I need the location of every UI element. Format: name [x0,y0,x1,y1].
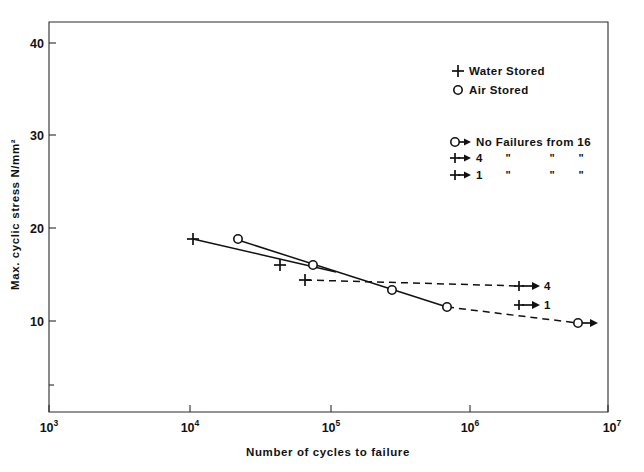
runout-endpoint-one: 1 [514,299,551,311]
y-tick-label-10: 10 [30,315,44,329]
circle-icon [454,86,462,94]
legend-ditto-2a: " [505,152,510,164]
data-point-air-4 [443,303,451,311]
chart-figure: 40 30 20 10 Max. cyclic stress N/mm² 103… [0,0,644,472]
legend-runout-count-2: 4 [476,152,483,164]
y-axis-title: Max. cyclic stress N/mm² [9,139,21,290]
legend-runout-count-3: 1 [476,169,483,181]
fatigue-sn-chart: 40 30 20 10 Max. cyclic stress N/mm² 103… [0,0,644,472]
runout-endpoint-air [574,319,598,327]
legend-item-water-stored: Water Stored [452,65,545,77]
legend-label-air-stored: Air Stored [469,84,529,96]
plus-icon [452,65,464,77]
y-axis-tick-labels: 40 30 20 10 [30,37,44,329]
x-axis-ticks [49,405,608,412]
legend-ditto-3c: " [578,169,583,181]
runout-label-one: 1 [544,299,551,311]
legend-runout-row-2: 4 " " " [450,152,584,164]
x-tick-label-1e3: 103 [40,418,59,435]
y-axis-title-group: Max. cyclic stress N/mm² [9,139,21,290]
legend-label-water-stored: Water Stored [469,65,545,77]
markers-water-stored [187,233,311,286]
axes-frame [49,22,608,412]
x-tick-label-1e5: 105 [322,418,341,435]
series-line-water-runout [305,280,520,286]
legend-ditto-2c: " [578,152,583,164]
data-point-water-3 [299,274,311,286]
x-tick-label-1e6: 106 [461,418,480,435]
x-axis-title: Number of cycles to failure [246,446,410,458]
legend-runout-row-3: 1 " " " [450,169,584,181]
legend-runouts: No Failures from 16 4 " " " [450,136,591,181]
y-tick-label-40: 40 [30,37,44,51]
legend-runout-row-1: No Failures from 16 [451,136,591,148]
plus-arrow-icon-4 [450,153,471,163]
plus-arrow-icon-1 [450,170,471,180]
x-tick-label-1e7: 107 [603,418,622,435]
y-axis-ticks [49,43,56,385]
runout-label-water: 4 [544,280,551,292]
series-line-air-runout [447,307,578,323]
data-point-air-2 [309,261,317,269]
y-tick-label-30: 30 [30,129,44,143]
data-point-air-3 [388,286,396,294]
legend-ditto-3a: " [505,169,510,181]
circle-arrow-icon [451,138,471,146]
legend-ditto-3b: " [549,169,554,181]
legend-item-air-stored: Air Stored [454,84,529,96]
x-tick-label-1e4: 104 [181,418,200,435]
data-point-air-1 [234,235,242,243]
runout-endpoint-water: 4 [514,280,551,292]
legend-primary: Water Stored Air Stored [452,65,545,96]
series-line-air-stored [238,240,447,307]
x-axis-tick-labels: 103 104 105 106 107 [40,418,622,435]
legend-ditto-2b: " [549,152,554,164]
y-tick-label-20: 20 [30,222,44,236]
data-point-water-1 [187,233,199,245]
legend-runout-label-1: No Failures from 16 [476,136,591,148]
